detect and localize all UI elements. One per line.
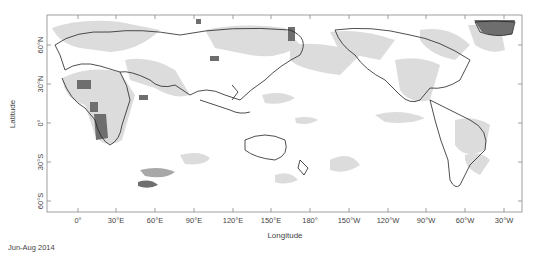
seasonal-anomaly-map: 0° 30°E 60°E 90°E 120°E 150°E 180° 150°W… (0, 0, 543, 256)
x-tick-label: 150°E (261, 216, 282, 225)
x-tick-label: 30°W (495, 216, 513, 225)
x-tick-label: 90°E (186, 216, 202, 225)
y-tick-label: 60°N (36, 37, 45, 54)
x-tick-label: 30°E (108, 216, 124, 225)
x-tick-label: 60°W (456, 216, 474, 225)
x-tick-label: 60°E (147, 216, 163, 225)
y-tick-label: 30°S (36, 154, 45, 170)
x-tick-label: 90°W (417, 216, 435, 225)
x-axis-label: Longitude (267, 231, 302, 240)
x-tick-label: 0° (74, 216, 81, 225)
x-tick-label: 180° (302, 216, 318, 225)
period-caption: Jun-Aug 2014 (8, 243, 55, 252)
y-tick-label: 0° (36, 119, 45, 126)
y-axis-label: Latitude (8, 100, 17, 128)
x-tick-label: 150°W (338, 216, 361, 225)
y-tick-label: 30°N (36, 76, 45, 93)
x-tick-label: 120°E (223, 216, 244, 225)
y-tick-label: 60°S (36, 193, 45, 209)
x-tick-label: 120°W (377, 216, 400, 225)
light-shaded-regions (52, 21, 505, 184)
